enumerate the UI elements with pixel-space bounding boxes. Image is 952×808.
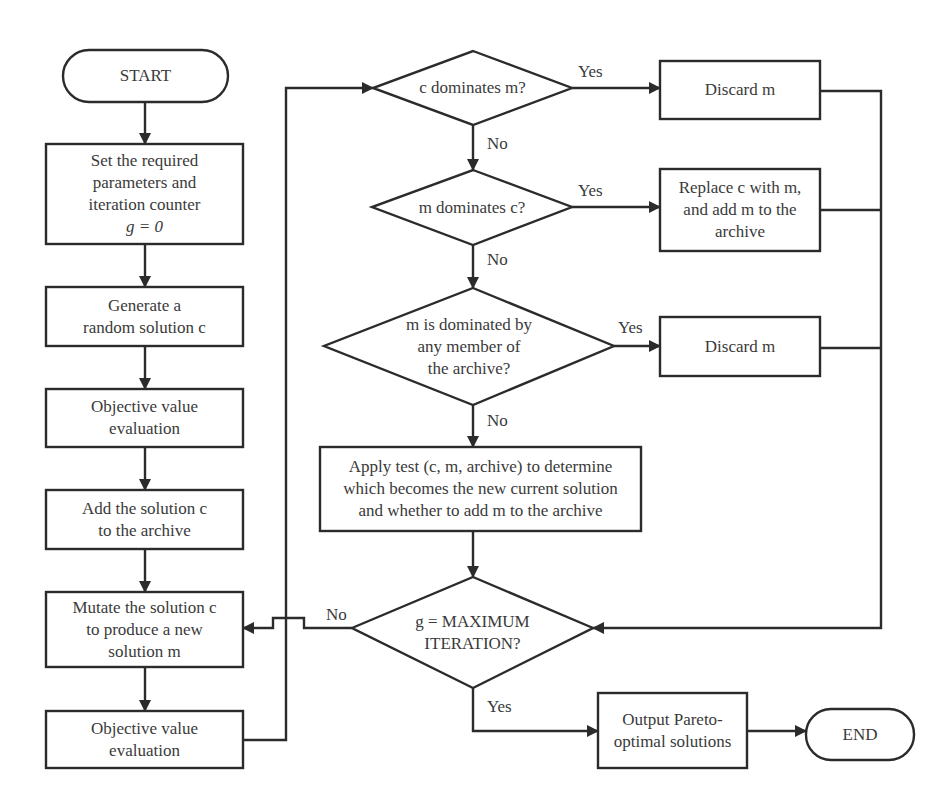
replace-line-1: Replace c with m,	[679, 177, 802, 199]
set-params-line-2: parameters and	[93, 172, 196, 194]
edge-label-no-2: No	[487, 250, 508, 270]
max-iteration-line-2: ITERATION?	[424, 633, 520, 655]
c-dominates-m-label: c dominates m?	[419, 77, 526, 99]
m-dominated-by-archive-decision: m is dominated by any member of the arch…	[324, 288, 614, 405]
edge-label-no-4: No	[326, 605, 347, 625]
replace-line-2: and add m to the	[683, 199, 796, 221]
set-params-line-1: Set the required	[91, 150, 199, 172]
edge-label-yes-4: Yes	[487, 697, 512, 717]
apply-test-line-2: which becomes the new current solution	[343, 478, 617, 500]
m-dominates-c-label: m dominates c?	[419, 197, 526, 219]
objective-eval-1-line-2: evaluation	[109, 418, 180, 440]
edge-label-yes-2: Yes	[578, 181, 603, 201]
output-line-1: Output Pareto-	[622, 709, 723, 731]
m-dominated-line-1: m is dominated by	[406, 314, 532, 336]
end-terminal: END	[806, 709, 914, 760]
mutate-line-1: Mutate the solution c	[72, 597, 216, 619]
edge-label-yes-3: Yes	[618, 318, 643, 338]
mutate-line-2: to produce a new	[86, 619, 203, 641]
set-params-line-4: g = 0	[126, 216, 163, 238]
end-label: END	[843, 724, 878, 746]
discard-2-label: Discard m	[705, 336, 775, 358]
objective-eval-2-line-1: Objective value	[91, 718, 198, 740]
apply-test-line-3: and whether to add m to the archive	[358, 500, 602, 522]
max-iteration-line-1: g = MAXIMUM	[415, 611, 529, 633]
discard-1-label: Discard m	[705, 79, 775, 101]
m-dominates-c-decision: m dominates c?	[372, 170, 572, 245]
start-terminal: START	[63, 50, 228, 102]
replace-box: Replace c with m, and add m to the archi…	[660, 169, 820, 251]
objective-eval-2-box: Objective value evaluation	[46, 711, 243, 768]
add-archive-line-1: Add the solution c	[82, 498, 207, 520]
generate-line-1: Generate a	[108, 295, 181, 317]
mutate-box: Mutate the solution c to produce a new s…	[46, 592, 243, 667]
set-params-line-3: iteration counter	[89, 194, 201, 216]
edge-label-no-3: No	[487, 411, 508, 431]
generate-box: Generate a random solution c	[46, 287, 243, 346]
m-dominated-line-3: the archive?	[428, 358, 511, 380]
add-archive-box: Add the solution c to the archive	[46, 490, 243, 549]
edge-label-no-1: No	[487, 134, 508, 154]
discard-1-box: Discard m	[660, 61, 820, 119]
mutate-line-3: solution m	[108, 641, 180, 663]
objective-eval-2-line-2: evaluation	[109, 740, 180, 762]
set-params-box: Set the required parameters and iteratio…	[46, 144, 243, 244]
output-line-2: optimal solutions	[614, 731, 732, 753]
replace-line-3: archive	[715, 221, 765, 243]
apply-test-box: Apply test (c, m, archive) to determine …	[320, 447, 641, 531]
apply-test-line-1: Apply test (c, m, archive) to determine	[349, 456, 612, 478]
max-iteration-decision: g = MAXIMUM ITERATION?	[352, 577, 593, 688]
start-label: START	[120, 65, 171, 87]
discard-2-box: Discard m	[660, 317, 820, 376]
output-box: Output Pareto- optimal solutions	[598, 693, 747, 768]
c-dominates-m-decision: c dominates m?	[373, 51, 572, 125]
generate-line-2: random solution c	[83, 317, 206, 339]
objective-eval-1-line-1: Objective value	[91, 396, 198, 418]
edge-label-yes-1: Yes	[578, 62, 603, 82]
m-dominated-line-2: any member of	[418, 336, 521, 358]
objective-eval-1-box: Objective value evaluation	[46, 389, 243, 447]
add-archive-line-2: to the archive	[98, 520, 191, 542]
